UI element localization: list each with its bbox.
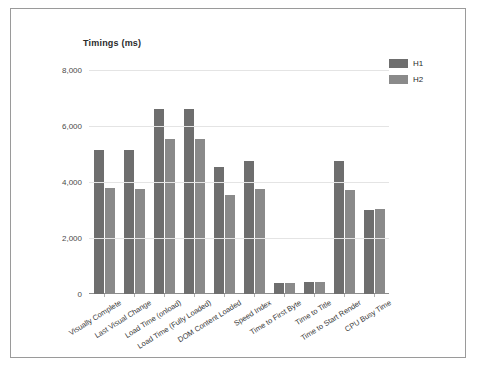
bar-h1[interactable] (124, 150, 134, 294)
bar-h2[interactable] (105, 188, 115, 294)
gridline (89, 126, 389, 127)
bar-h2[interactable] (255, 189, 265, 294)
bar-h1[interactable] (184, 109, 194, 294)
legend-swatch-icon (389, 75, 408, 84)
y-axis-tick-label: 0 (78, 290, 82, 299)
bar-h1[interactable] (274, 283, 284, 294)
bar-h1[interactable] (304, 282, 314, 294)
bar-h1[interactable] (244, 161, 254, 294)
bar-h2[interactable] (225, 195, 235, 294)
bar-h1[interactable] (364, 210, 374, 294)
gridline (89, 238, 389, 239)
legend-item-label: H1 (413, 59, 423, 68)
legend-swatch-icon (389, 59, 408, 68)
y-axis-tick-label: 4,000 (62, 178, 82, 187)
chart-title: Timings (ms) (83, 38, 141, 48)
bar-h2[interactable] (375, 209, 385, 294)
chart-legend: H1H2 (389, 57, 449, 89)
plot-area: 8,0006,0004,0002,0000 (89, 70, 389, 294)
gridline (89, 70, 389, 71)
bar-h2[interactable] (195, 139, 205, 294)
legend-item-h1[interactable]: H1 (389, 57, 449, 70)
legend-item-label: H2 (413, 75, 423, 84)
bar-h2[interactable] (285, 283, 295, 294)
bar-h2[interactable] (345, 190, 355, 294)
gridline (89, 182, 389, 183)
bar-h2[interactable] (165, 139, 175, 294)
y-axis-tick-label: 6,000 (62, 122, 82, 131)
bar-h1[interactable] (334, 161, 344, 294)
bar-h1[interactable] (154, 109, 164, 294)
legend-item-h2[interactable]: H2 (389, 73, 449, 86)
bar-h2[interactable] (315, 282, 325, 294)
y-axis-tick-label: 2,000 (62, 234, 82, 243)
bar-h1[interactable] (94, 150, 104, 294)
bar-h2[interactable] (135, 189, 145, 294)
x-axis-labels: Visually CompleteLast Visual ChangeLoad … (89, 296, 389, 369)
y-axis-tick-label: 8,000 (62, 66, 82, 75)
chart-frame: Timings (ms) H1H2 8,0006,0004,0002,0000 … (10, 8, 466, 358)
bar-h1[interactable] (214, 167, 224, 294)
